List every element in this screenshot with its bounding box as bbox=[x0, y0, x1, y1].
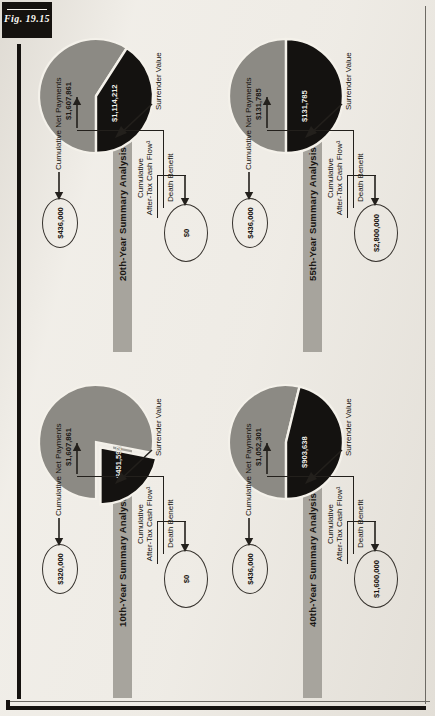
callout-arrow bbox=[52, 170, 66, 200]
cumulative-after-tax-line1: Cumulative bbox=[326, 158, 335, 198]
death-benefit-label: Death Benefit bbox=[166, 154, 176, 202]
callout-arrow bbox=[242, 170, 256, 200]
panel-board: 20th-Year Summary Analysis $1,607,861$1,… bbox=[24, 10, 237, 358]
panel-tenth-year: 10th-Year Summary Analysis $1,607,861$45… bbox=[24, 356, 237, 704]
cumulative-after-tax-label: Cumulative After-Tax Cash Flow¹ bbox=[326, 485, 344, 563]
cumulative-net-payments-label: Cumulative Net Payments bbox=[244, 78, 254, 170]
panel-board: 40th-Year Summary Analysis $1,052,301$90… bbox=[214, 356, 427, 704]
cumulative-net-payments-value: $436,000 bbox=[246, 207, 255, 239]
cumulative-after-tax-stem bbox=[157, 521, 186, 522]
cumulative-after-tax-value: $0 bbox=[182, 575, 191, 583]
callout-arrow bbox=[52, 516, 66, 546]
cumulative-net-payments-oval: $436,000 bbox=[232, 544, 268, 594]
panel-title: 20th-Year Summary Analysis bbox=[117, 147, 128, 281]
cumulative-after-tax-line1: Cumulative bbox=[326, 504, 335, 544]
death-benefit-leader-rule bbox=[163, 476, 164, 554]
cumulative-after-tax-oval: $0 bbox=[164, 204, 208, 262]
cumulative-after-tax-stem bbox=[157, 175, 186, 176]
death-benefit-label: Death Benefit bbox=[356, 154, 366, 202]
cumulative-after-tax-line1: Cumulative bbox=[136, 158, 145, 198]
callout-arrow bbox=[178, 520, 192, 552]
panel-fortieth-year: 40th-Year Summary Analysis $1,052,301$90… bbox=[214, 356, 427, 704]
panel-fiftyfifth-year: 55th-Year Summary Analysis $131,785$131,… bbox=[214, 10, 427, 358]
callout-arrow bbox=[368, 174, 382, 206]
cumulative-after-tax-rule bbox=[347, 175, 348, 218]
panel-title: 40th-Year Summary Analysis bbox=[307, 493, 318, 627]
cumulative-net-payments-value: $436,000 bbox=[246, 553, 255, 585]
cumulative-net-payments-label: Cumulative Net Payments bbox=[244, 424, 254, 516]
cumulative-after-tax-line2: After-Tax Cash Flow¹ bbox=[335, 487, 344, 562]
death-benefit-leader-rule bbox=[163, 130, 164, 208]
page-spine-corner bbox=[6, 700, 10, 710]
cumulative-net-payments-value: $436,000 bbox=[56, 207, 65, 239]
cumulative-after-tax-value: $0 bbox=[182, 229, 191, 237]
cumulative-after-tax-value: $2,800,000 bbox=[372, 214, 381, 252]
cumulative-after-tax-rule bbox=[347, 521, 348, 564]
callout-arrow bbox=[260, 441, 274, 477]
cumulative-net-payments-oval: $320,000 bbox=[42, 544, 78, 594]
cumulative-after-tax-oval: $0 bbox=[164, 550, 208, 608]
panel-title: 10th-Year Summary Analysis bbox=[117, 493, 128, 627]
death-benefit-leader-rule bbox=[353, 130, 354, 208]
panel-twentieth-year: 20th-Year Summary Analysis $1,607,861$1,… bbox=[24, 10, 237, 358]
cumulative-after-tax-oval: $1,600,000 bbox=[354, 550, 398, 608]
cumulative-net-payments-value: $320,000 bbox=[56, 553, 65, 585]
panel-board: 55th-Year Summary Analysis $131,785$131,… bbox=[214, 10, 427, 358]
cumulative-net-payments-oval: $436,000 bbox=[232, 198, 268, 248]
callout-arrow bbox=[242, 516, 256, 546]
panel-board: 10th-Year Summary Analysis $1,607,861$45… bbox=[24, 356, 237, 704]
cumulative-after-tax-value: $1,600,000 bbox=[372, 560, 381, 598]
surrender-value-label: Surrender Value bbox=[154, 52, 164, 110]
surrender-value-label: Surrender Value bbox=[344, 52, 354, 110]
callout-arrow bbox=[178, 174, 192, 206]
callout-arrow bbox=[70, 95, 84, 131]
cumulative-after-tax-rule bbox=[157, 175, 158, 218]
cumulative-after-tax-label: Cumulative After-Tax Cash Flow¹ bbox=[136, 139, 154, 217]
cumulative-after-tax-line1: Cumulative bbox=[136, 504, 145, 544]
cumulative-net-payments-label: Cumulative Net Payments bbox=[54, 424, 64, 516]
page-spine-foot bbox=[6, 706, 426, 710]
callout-arrow bbox=[368, 520, 382, 552]
surrender-value-label: Surrender Value bbox=[344, 398, 354, 456]
surrender-value-label: Surrender Value bbox=[154, 398, 164, 456]
callout-arrow bbox=[260, 95, 274, 131]
cumulative-after-tax-oval: $2,800,000 bbox=[354, 204, 398, 262]
cumulative-after-tax-stem bbox=[347, 521, 376, 522]
cumulative-after-tax-stem bbox=[347, 175, 376, 176]
callout-arrow bbox=[70, 441, 84, 477]
cumulative-after-tax-line2: After-Tax Cash Flow¹ bbox=[145, 487, 154, 562]
death-benefit-label: Death Benefit bbox=[166, 500, 176, 548]
cumulative-after-tax-label: Cumulative After-Tax Cash Flow¹ bbox=[136, 485, 154, 563]
death-benefit-leader-rule bbox=[353, 476, 354, 554]
cumulative-net-payments-oval: $436,000 bbox=[42, 198, 78, 248]
cumulative-net-payments-label: Cumulative Net Payments bbox=[54, 78, 64, 170]
page-spine-bar bbox=[17, 44, 21, 699]
cumulative-after-tax-label: Cumulative After-Tax Cash Flow¹ bbox=[326, 139, 344, 217]
panel-title: 55th-Year Summary Analysis bbox=[307, 147, 318, 281]
cumulative-after-tax-line2: After-Tax Cash Flow¹ bbox=[335, 141, 344, 216]
death-benefit-label: Death Benefit bbox=[356, 500, 366, 548]
cumulative-after-tax-rule bbox=[157, 521, 158, 564]
figure-page: Fig. 19.15 10th-Year Summary Analysis $1… bbox=[0, 0, 435, 716]
cumulative-after-tax-line2: After-Tax Cash Flow¹ bbox=[145, 141, 154, 216]
